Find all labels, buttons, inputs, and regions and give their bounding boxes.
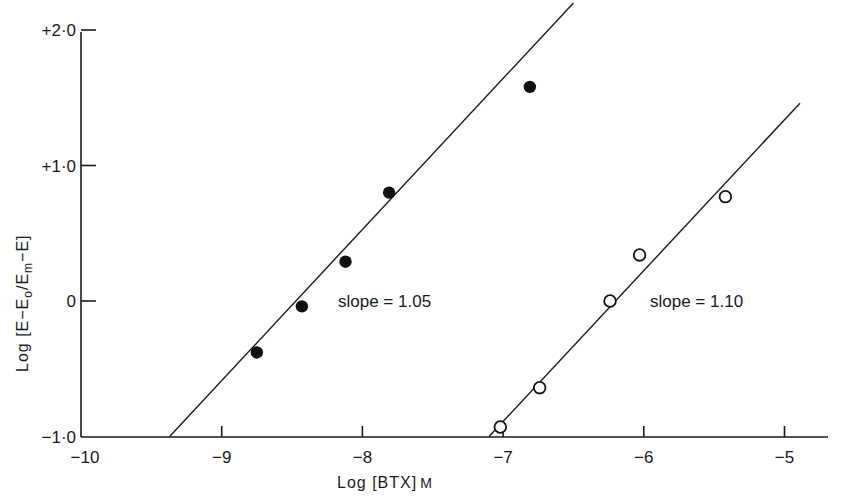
- y-tick-label: +1·0: [42, 157, 77, 176]
- fit-lines: [170, 3, 800, 437]
- filled-data-point: [296, 300, 308, 312]
- filled-data-point: [251, 346, 263, 358]
- y-tick-label: +2·0: [42, 21, 77, 40]
- axes: [81, 32, 828, 437]
- x-axis-label: Log [BTX]M: [337, 474, 433, 491]
- filled-data-point: [383, 186, 395, 198]
- open-data-point: [604, 295, 616, 307]
- slope-annotation: slope = 1.05: [338, 292, 431, 311]
- x-ticks: −10−9−8−7−6−5: [71, 426, 795, 467]
- y-axis-label: Log [E−Eo/Em−E]: [14, 234, 35, 372]
- open-data-point: [534, 382, 546, 394]
- x-tick-label: −10: [71, 448, 100, 467]
- data-points: [251, 81, 732, 433]
- open-data-point: [634, 249, 646, 261]
- slope-annotation: slope = 1.10: [650, 292, 743, 311]
- chart: −10−9−8−7−6−5 −1·00+1·0+2·0 slope = 1.05…: [0, 0, 843, 504]
- open-data-point: [494, 421, 506, 433]
- x-tick-label: −8: [353, 448, 372, 467]
- x-tick-label: −7: [493, 448, 512, 467]
- x-tick-label: −9: [212, 448, 231, 467]
- x-tick-label: −5: [775, 448, 794, 467]
- filled-data-point: [524, 81, 536, 93]
- fit-line: [170, 3, 574, 437]
- x-tick-label: −6: [634, 448, 653, 467]
- y-ticks: −1·00+1·0+2·0: [42, 21, 97, 447]
- open-data-point: [720, 191, 732, 203]
- filled-data-point: [339, 256, 351, 268]
- y-tick-label: −1·0: [42, 428, 77, 447]
- y-tick-label: 0: [67, 292, 76, 311]
- annotations: slope = 1.05slope = 1.10: [338, 292, 743, 311]
